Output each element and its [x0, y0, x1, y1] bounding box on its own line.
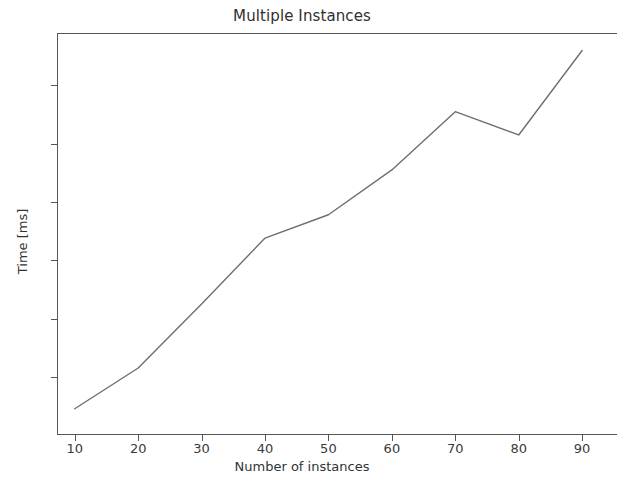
chart-title: Multiple Instances	[0, 7, 604, 25]
y-tick-mark	[51, 202, 57, 203]
x-tick-label: 80	[510, 441, 527, 456]
x-tick-label: 60	[384, 441, 401, 456]
y-axis-label: Time [ms]	[15, 162, 30, 322]
y-tick-mark	[51, 319, 57, 320]
x-tick-label: 70	[447, 441, 464, 456]
y-tick-mark	[51, 85, 57, 86]
x-axis-label: Number of instances	[0, 459, 604, 474]
y-tick-mark	[51, 377, 57, 378]
y-tick-mark	[51, 260, 57, 261]
x-tick-label: 10	[67, 441, 84, 456]
x-tick-label: 40	[257, 441, 274, 456]
y-tick-mark	[51, 144, 57, 145]
x-tick-label: 90	[574, 441, 591, 456]
x-tick-label: 20	[130, 441, 147, 456]
plot-area	[57, 33, 617, 435]
x-tick-label: 30	[193, 441, 210, 456]
x-tick-label: 50	[320, 441, 337, 456]
